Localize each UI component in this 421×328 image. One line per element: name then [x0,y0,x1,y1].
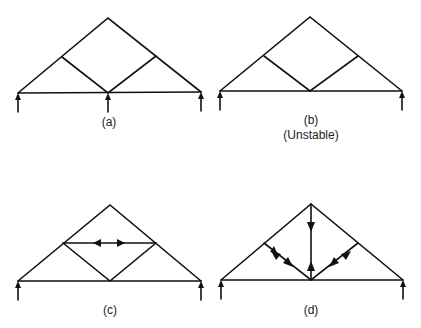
panel-label-d: (d) [304,303,319,317]
support-arrow-icon [217,91,405,110]
truss-panel-a: (a) [15,18,204,129]
support-arrow-icon [15,281,204,300]
panel-note-unstable: (Unstable) [283,128,338,142]
truss-diagram: (a) (b) (Unstable) (c) [0,0,421,328]
panel-label-b: (b) [304,113,319,127]
panel-label-a: (a) [102,115,117,129]
support-arrow-icon [15,92,204,112]
support-arrow-icon [218,280,406,299]
panel-label-c: (c) [103,303,117,317]
truss-panel-c: (c) [15,205,204,317]
truss-panel-b: (b) (Unstable) [217,17,405,142]
truss-panel-d: (d) [218,204,406,317]
